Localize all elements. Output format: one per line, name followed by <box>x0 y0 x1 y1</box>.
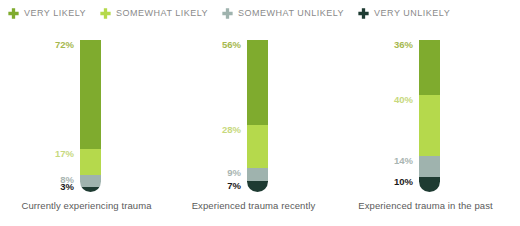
category-label: Currently experiencing trauma <box>0 200 173 211</box>
segment-label-group: 56% 28% 9% 7% <box>167 40 241 192</box>
bar-segment-very-likely <box>247 40 268 125</box>
legend-label-very-unlikely: VERY UNLIKELY <box>374 8 450 19</box>
plus-icon <box>358 8 369 19</box>
chart-column-currently-experiencing-trauma: 72% 17% 8% 3% Currently experiencing tra… <box>0 30 173 226</box>
legend-label-very-likely: VERY LIKELY <box>24 8 86 19</box>
segment-label-very-likely: 56% <box>167 40 241 50</box>
bar-segment-somewhat-likely <box>247 125 268 168</box>
bar-segment-very-unlikely <box>419 177 440 192</box>
bar-segment-very-unlikely <box>247 181 268 192</box>
plus-icon <box>8 8 19 19</box>
chart-column-experienced-trauma-in-the-past: 36% 40% 14% 10% Experienced trauma in th… <box>339 30 512 226</box>
segment-label-group: 36% 40% 14% 10% <box>339 40 413 192</box>
legend-label-somewhat-likely: SOMEWHAT LIKELY <box>116 8 208 19</box>
bar-segment-very-likely <box>80 40 101 149</box>
segment-label-very-likely: 36% <box>339 40 413 50</box>
legend-label-somewhat-unlikely: SOMEWHAT UNLIKELY <box>238 8 344 19</box>
segment-label-somewhat-unlikely: 14% <box>339 156 413 166</box>
bar-segment-somewhat-likely <box>419 95 440 156</box>
segment-label-very-unlikely: 3% <box>0 182 74 192</box>
segment-label-very-unlikely: 7% <box>167 181 241 191</box>
bar-segment-somewhat-unlikely <box>80 175 101 187</box>
segment-label-group: 72% 17% 8% 3% <box>0 40 74 192</box>
legend-item-very-likely: VERY LIKELY <box>8 8 86 19</box>
plus-icon <box>100 8 111 19</box>
stacked-bar <box>247 40 268 192</box>
legend-item-somewhat-unlikely: SOMEWHAT UNLIKELY <box>222 8 344 19</box>
segment-label-very-likely: 72% <box>0 40 74 50</box>
category-label: Experienced trauma in the past <box>339 200 512 211</box>
bar-segment-very-likely <box>419 40 440 95</box>
bar-segment-somewhat-unlikely <box>247 168 268 182</box>
bar-segment-somewhat-likely <box>80 149 101 175</box>
segment-label-somewhat-likely: 40% <box>339 95 413 105</box>
chart-column-experienced-trauma-recently: 56% 28% 9% 7% Experienced trauma recentl… <box>167 30 340 226</box>
stacked-bar <box>80 40 101 192</box>
stacked-bar-chart: 72% 17% 8% 3% Currently experiencing tra… <box>0 30 520 226</box>
plus-icon <box>222 8 233 19</box>
segment-label-somewhat-likely: 17% <box>0 149 74 159</box>
category-label: Experienced trauma recently <box>167 200 340 211</box>
bar-segment-very-unlikely <box>80 187 101 192</box>
segment-label-very-unlikely: 10% <box>339 177 413 187</box>
legend-item-very-unlikely: VERY UNLIKELY <box>358 8 450 19</box>
legend-item-somewhat-likely: SOMEWHAT LIKELY <box>100 8 208 19</box>
segment-label-somewhat-unlikely: 9% <box>167 168 241 178</box>
bar-segment-somewhat-unlikely <box>419 156 440 177</box>
segment-label-somewhat-likely: 28% <box>167 125 241 135</box>
stacked-bar <box>419 40 440 192</box>
chart-legend: VERY LIKELY SOMEWHAT LIKELY SOMEWHAT UNL… <box>8 4 512 22</box>
